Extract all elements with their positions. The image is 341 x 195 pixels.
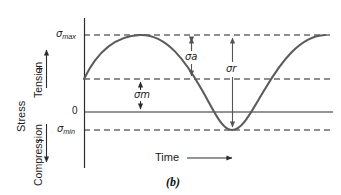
tension-plus-sign: + — [36, 63, 43, 75]
sigma-max-subscript: max — [62, 32, 76, 41]
compression-minus-sign: – — [37, 134, 44, 146]
zero-tick-label: 0 — [72, 106, 78, 116]
sigma-max-tick-label: σmax — [56, 29, 76, 40]
fatigue-stress-cycle-figure — [0, 0, 341, 195]
stress-cycle-curve — [84, 35, 325, 130]
sigma-min-subscript: min — [63, 127, 75, 136]
sigma-m-annotation-label: σm — [134, 90, 150, 100]
sigma-a-symbol: σa — [185, 51, 197, 62]
y-axis-label-stress: Stress — [16, 101, 27, 132]
sigma-a-annotation-label: σa — [185, 52, 197, 62]
figure-caption: (b) — [166, 176, 180, 188]
sigma-m-symbol: σm — [134, 89, 150, 100]
sigma-r-annotation-label: σr — [226, 64, 236, 74]
sigma-r-symbol: σr — [226, 63, 236, 74]
x-axis-label-time: Time — [155, 152, 179, 163]
sigma-min-tick-label: σmin — [57, 124, 75, 135]
